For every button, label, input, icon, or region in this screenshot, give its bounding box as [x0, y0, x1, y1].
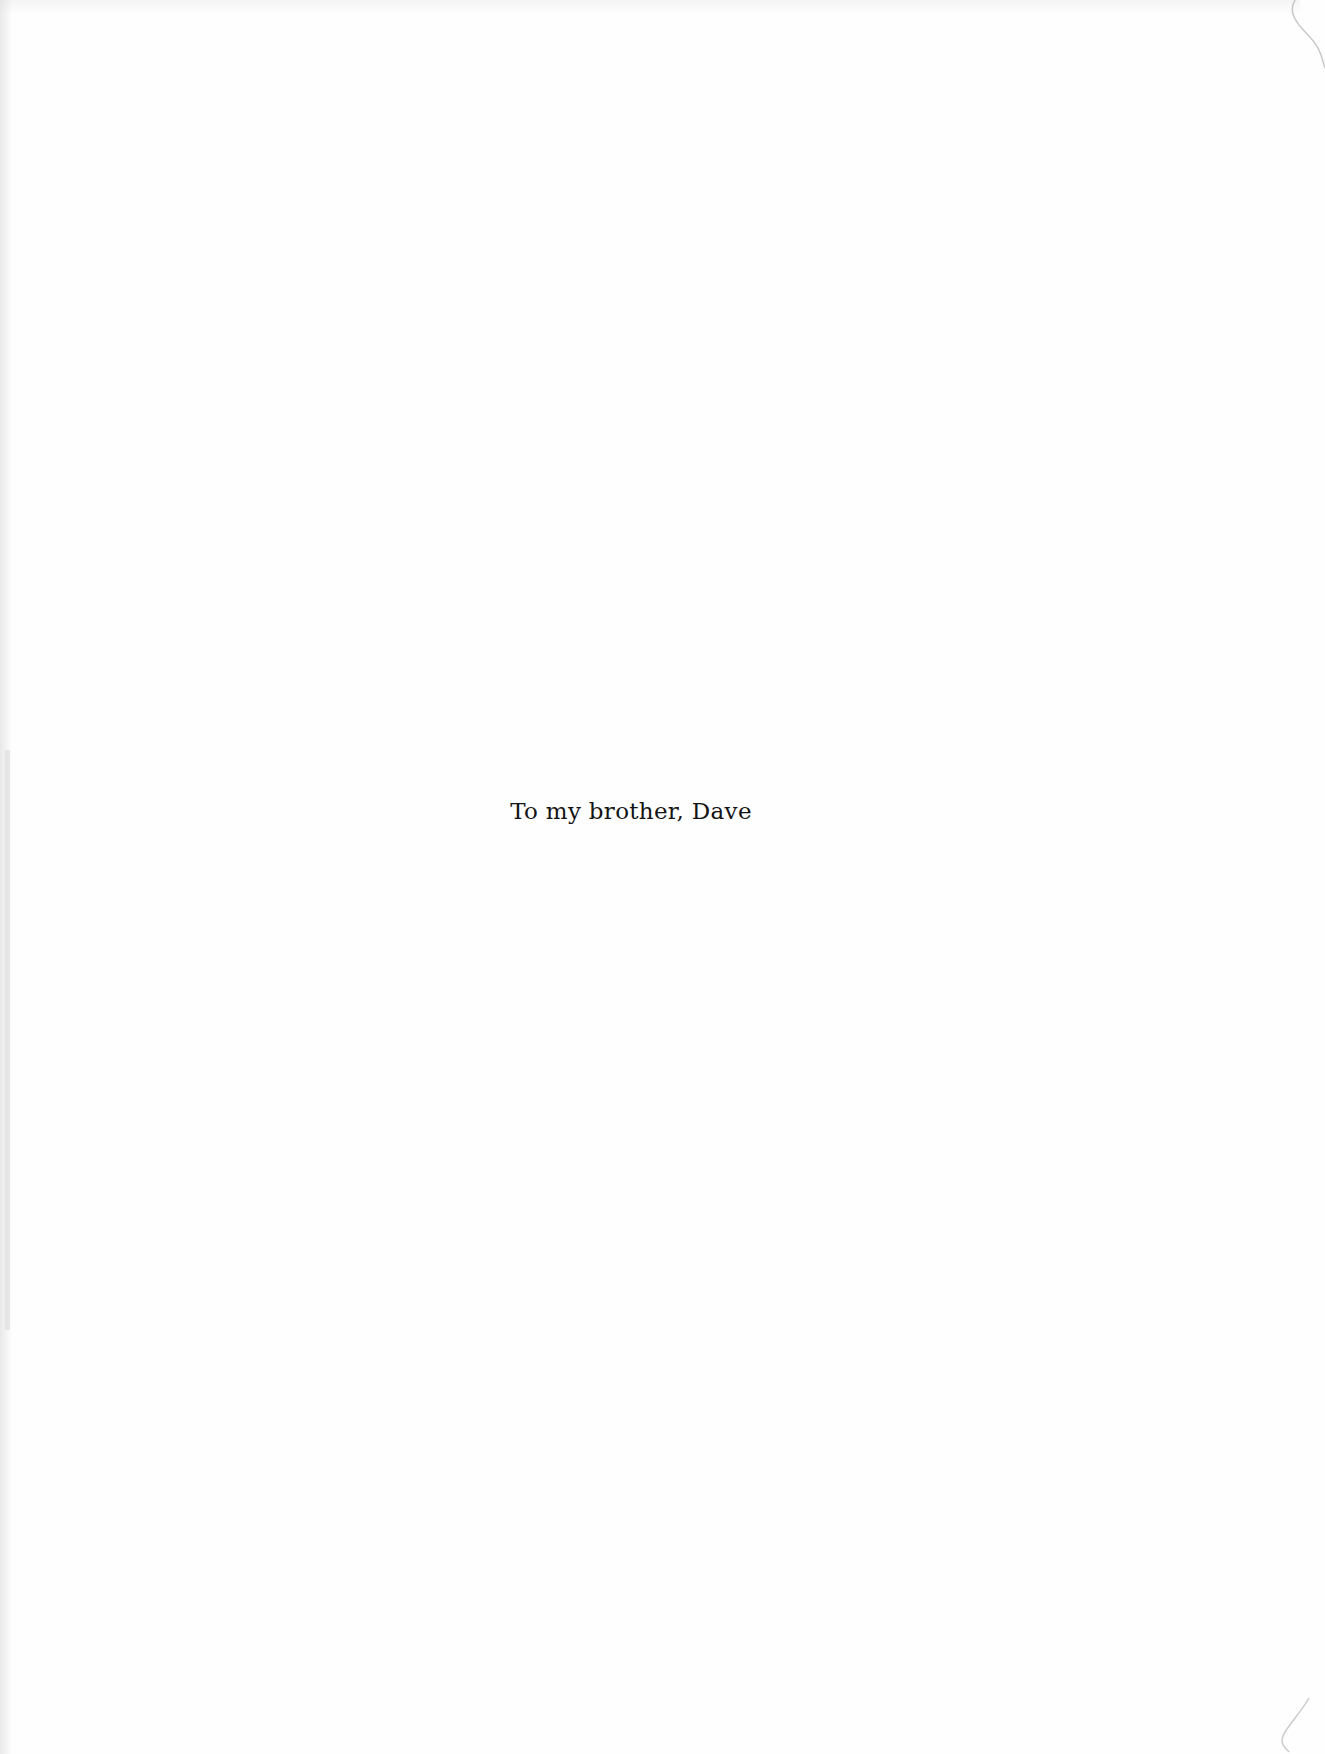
page-curl-top-right	[1285, 0, 1325, 70]
page-curl-bottom-right	[1275, 1694, 1315, 1754]
dedication-text: To my brother, Dave	[0, 798, 1262, 824]
scanned-page: To my brother, Dave	[0, 0, 1325, 1754]
scan-bleed-top	[0, 0, 1300, 14]
scan-left-edge-strip	[5, 750, 10, 1330]
